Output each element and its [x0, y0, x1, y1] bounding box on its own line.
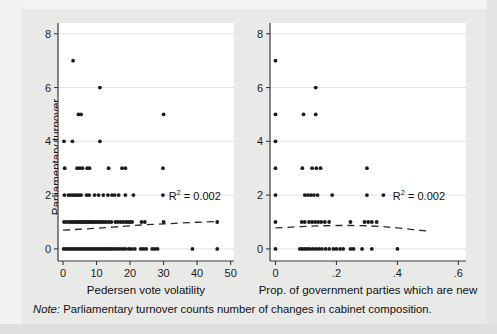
- paper-margin-bottom: [0, 324, 497, 334]
- scatter-panel-right: 024680.2.4.6Prop. of government parties …: [248, 9, 488, 294]
- y-tick-label: 4: [45, 135, 51, 147]
- x-axis-label: Pedersen vote volatility: [87, 284, 206, 296]
- x-tick-label: .2: [332, 267, 341, 279]
- y-tick-label: 6: [45, 82, 51, 94]
- scatter-plot-right-svg: 024680.2.4.6Prop. of government parties …: [248, 9, 488, 294]
- figure-panel: Parliamentary turnover 0246801020304050P…: [0, 0, 497, 334]
- paper-margin-top: [0, 0, 497, 9]
- note-body: Parliamentary turnover counts number of …: [60, 303, 432, 315]
- x-tick-label: 20: [124, 267, 136, 279]
- x-tick-label: 0: [60, 267, 66, 279]
- r-squared-annotation-right: R2 = 0.002: [393, 188, 445, 202]
- y-tick-label: 0: [257, 243, 263, 255]
- x-tick-label: 30: [157, 267, 169, 279]
- scatter-panel-left: Parliamentary turnover 0246801020304050P…: [22, 9, 242, 294]
- y-tick-label: 0: [45, 243, 51, 255]
- x-axis-label: Prop. of government parties which are ne…: [259, 284, 478, 296]
- x-tick-label: 0: [272, 267, 278, 279]
- x-tick-label: .4: [393, 267, 402, 279]
- y-tick-label: 8: [45, 28, 51, 40]
- y-tick-label: 8: [257, 28, 263, 40]
- y-tick-label: 6: [257, 82, 263, 94]
- r-squared-annotation-left: R2 = 0.002: [169, 188, 221, 202]
- x-tick-label: 40: [191, 267, 203, 279]
- x-tick-label: 50: [225, 267, 237, 279]
- y-tick-label: 2: [45, 189, 51, 201]
- scatter-plot-left-svg: 0246801020304050Pedersen vote volatility: [22, 9, 242, 294]
- paper-margin-left: [0, 0, 22, 334]
- paper-margin-right: [487, 0, 497, 334]
- x-tick-label: 10: [90, 267, 102, 279]
- y-tick-label: 4: [257, 135, 263, 147]
- y-tick-label: 2: [257, 189, 263, 201]
- figure-note: Note: Parliamentary turnover counts numb…: [33, 303, 432, 315]
- note-label: Note:: [33, 303, 60, 315]
- x-tick-label: .6: [454, 267, 463, 279]
